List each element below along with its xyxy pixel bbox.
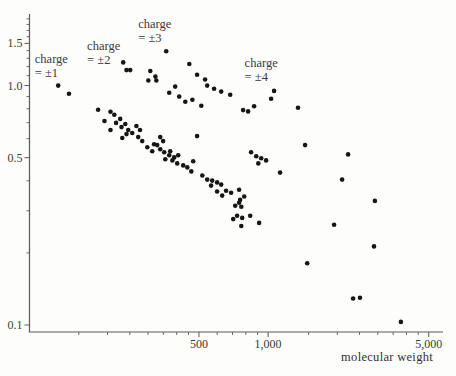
data-point [123, 122, 128, 127]
data-point [229, 190, 234, 195]
data-point [340, 177, 345, 182]
data-point [148, 69, 153, 74]
x-tick-label: 1,000 [255, 337, 282, 351]
y-tick-label: 1.5 [8, 36, 23, 50]
data-point [167, 90, 172, 95]
data-point [190, 97, 195, 102]
data-point [219, 182, 224, 187]
data-point [168, 149, 173, 154]
data-point [205, 177, 210, 182]
data-point [56, 83, 61, 88]
data-point [121, 60, 126, 65]
y-tick-label: 0.5 [8, 151, 23, 165]
data-point [177, 94, 182, 99]
y-tick-label: 1.0 [8, 79, 23, 93]
data-point [305, 261, 310, 266]
data-point [164, 49, 169, 54]
data-point [210, 178, 215, 183]
figure: 1.51.00.50.15001,0005,000charge= ±1charg… [0, 0, 456, 376]
data-point [134, 124, 139, 129]
data-point [231, 217, 236, 222]
data-point [158, 147, 163, 152]
data-point [220, 193, 225, 198]
data-point [96, 108, 101, 113]
data-point [241, 108, 246, 113]
data-point [332, 223, 337, 228]
data-point [167, 153, 172, 158]
data-point [278, 170, 283, 175]
data-point [176, 153, 181, 158]
data-point [272, 89, 277, 94]
data-point [102, 119, 107, 124]
data-point [373, 199, 378, 204]
data-point [224, 188, 229, 193]
annotation-line: charge [35, 52, 69, 66]
y-tick-label: 0.1 [8, 318, 23, 332]
data-point [130, 131, 135, 136]
data-point [303, 143, 308, 148]
data-point [346, 152, 351, 157]
data-point [146, 78, 151, 83]
data-point [150, 149, 155, 154]
annotation-line: charge [138, 17, 172, 31]
data-point [126, 128, 131, 133]
data-point [136, 135, 141, 140]
data-point [219, 89, 224, 94]
data-point [237, 188, 242, 193]
data-point [108, 110, 113, 115]
data-point [195, 134, 200, 139]
data-point [254, 154, 259, 159]
data-point [195, 72, 200, 77]
data-point [296, 105, 301, 110]
data-point [112, 113, 117, 118]
data-point [185, 165, 190, 170]
data-point [128, 68, 133, 73]
data-point [269, 96, 274, 101]
x-tick-label: 5,000 [415, 337, 442, 351]
data-point [140, 139, 145, 144]
data-point [249, 150, 254, 155]
data-point [203, 77, 208, 82]
data-point [114, 121, 119, 126]
data-point [145, 145, 150, 150]
annotation-line: = ±2 [87, 53, 110, 67]
data-point [162, 150, 167, 155]
charge-annotation: charge= ±3 [138, 17, 172, 45]
data-point [173, 84, 178, 89]
data-point [358, 295, 363, 300]
data-point [215, 180, 220, 185]
data-point [264, 158, 269, 163]
data-point [191, 159, 196, 164]
data-point [189, 169, 194, 174]
data-point [228, 92, 233, 97]
annotation-line: = ±4 [245, 70, 269, 84]
data-point [138, 128, 143, 133]
data-point [248, 213, 253, 218]
data-point [153, 74, 158, 79]
data-point [154, 78, 159, 83]
data-point [205, 83, 210, 88]
data-point [119, 125, 124, 130]
annotation-line: = ±3 [138, 31, 161, 45]
data-point [372, 244, 377, 249]
data-point [187, 62, 192, 67]
x-tick-label: 500 [190, 337, 208, 351]
data-point [158, 135, 163, 140]
data-point [170, 158, 175, 163]
data-point [246, 109, 251, 114]
data-point [257, 221, 262, 226]
data-point [152, 142, 157, 147]
charge-annotation: charge= ±2 [87, 39, 121, 67]
data-point [175, 161, 180, 166]
data-point [120, 136, 125, 141]
data-point [181, 163, 186, 168]
data-point [108, 128, 113, 133]
data-point [183, 99, 188, 104]
data-point [118, 117, 123, 122]
data-point [200, 173, 205, 178]
data-point [239, 224, 244, 229]
data-point [235, 213, 240, 218]
data-point [161, 139, 166, 144]
annotation-line: charge [87, 39, 121, 53]
data-point [233, 203, 238, 208]
